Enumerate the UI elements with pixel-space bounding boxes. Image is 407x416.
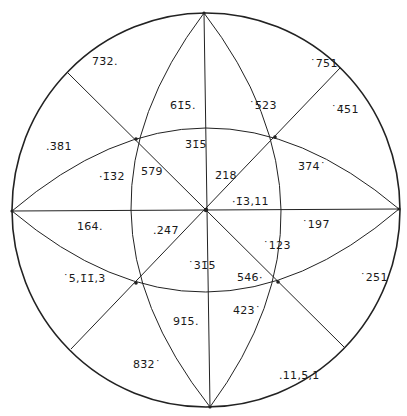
- pole-label-p451: ˙4̄51: [331, 104, 359, 116]
- pole-label-p315l: ˙31̄5: [188, 260, 216, 272]
- pole-label-p197: ˙197: [302, 219, 330, 231]
- pole-label-p523: ˙5̄23: [249, 100, 277, 112]
- pole-label-p123: ˙123: [263, 240, 291, 252]
- pole-label-p381: .3̄8̄1: [46, 141, 72, 153]
- pole-label-p5113: ˙5,1̄1̄,3: [63, 273, 106, 285]
- pole-label-p315u: 3̄1̄5: [185, 139, 207, 151]
- pole-label-p251: ˙251: [360, 272, 388, 284]
- pole-label-p832: 83̄2˙: [133, 359, 161, 371]
- projection-lines: [0, 0, 407, 416]
- pole-label-p1151: .11,5,1: [279, 370, 320, 382]
- pole-label-p732: 7̄3̄2.: [92, 56, 118, 68]
- pole-label-p751: ˙7̄51: [310, 58, 338, 70]
- pole-label-p546: 546·: [237, 272, 263, 284]
- pole-label-p423: 423˙: [233, 305, 261, 317]
- pole-label-p915: 91̄5.: [173, 316, 199, 328]
- pole-label-p615: 6̄1̄5.: [170, 100, 196, 112]
- pole-label-p579: 5̄7̄9: [141, 166, 163, 178]
- pole-label-p164: 16̄4.: [77, 221, 103, 233]
- pole-label-p218: 2̄18: [215, 170, 237, 182]
- pole-label-p1311: ·1̄3,11: [232, 196, 269, 208]
- pole-label-p132: ·1̄3̄2: [99, 171, 125, 183]
- pole-label-p247: .24̄7: [153, 225, 179, 237]
- pole-label-p374: 3̄74˙: [298, 161, 326, 173]
- stereographic-projection: 7̄3̄2.˙7̄516̄1̄5.˙5̄23˙4̄51.3̄8̄13̄1̄5·1…: [0, 0, 407, 416]
